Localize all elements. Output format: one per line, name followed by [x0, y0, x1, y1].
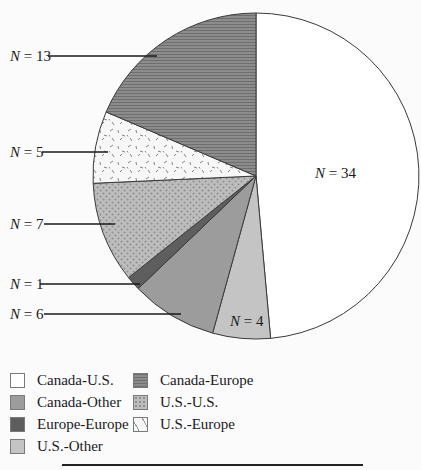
divider-rule	[62, 464, 363, 466]
label-n13: N = 13	[10, 48, 51, 64]
legend-swatch-canada-us	[10, 373, 25, 388]
legend-item-canada-other: Canada-Other	[10, 394, 121, 411]
label-n4: N = 4	[230, 313, 263, 329]
legend-swatch-canada-other	[10, 395, 25, 410]
legend-item-canada-europe: Canada-Europe	[133, 372, 253, 389]
legend-swatch-europe-europe	[10, 417, 25, 432]
legend-swatch-us-europe	[133, 417, 148, 432]
label-n34: N = 34	[315, 165, 356, 181]
label-n5: N = 5	[10, 144, 43, 160]
legend-swatch-canada-europe	[133, 373, 148, 388]
legend-item-us-us: U.S.-U.S.	[133, 394, 218, 411]
legend-item-us-europe: U.S.-Europe	[133, 416, 235, 433]
label-n7: N = 7	[10, 216, 43, 232]
legend-item-canada-us: Canada-U.S.	[10, 372, 114, 389]
legend-swatch-us-us	[133, 395, 148, 410]
pie-slices	[93, 13, 419, 339]
label-n1: N = 1	[10, 276, 43, 292]
legend-swatch-us-other	[10, 439, 25, 454]
legend-item-europe-europe: Europe-Europe	[10, 416, 129, 433]
label-n6: N = 6	[10, 306, 43, 322]
legend-item-us-other: U.S.-Other	[10, 438, 103, 455]
